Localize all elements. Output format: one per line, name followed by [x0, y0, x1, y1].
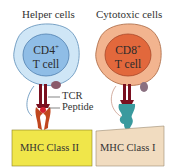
mhc-class-ii-label: MHC Class II [20, 142, 79, 153]
tcr-label: TCR [62, 90, 82, 101]
mhc-class-ii-molecule [35, 107, 50, 130]
mhc-class-i-label: MHC Class I [100, 142, 155, 153]
cd8-label: CD8+ T cell [110, 40, 146, 71]
cytotoxic-cells-title: Cytotoxic cells [96, 8, 162, 20]
helper-cells-title: Helper cells [22, 8, 75, 20]
tcr-right [120, 84, 134, 104]
tcr-left [36, 84, 50, 108]
cd4-label: CD4+ T cell [28, 40, 64, 71]
peptide-label: Peptide [62, 101, 94, 112]
mhc-class-i-molecule [119, 104, 136, 130]
